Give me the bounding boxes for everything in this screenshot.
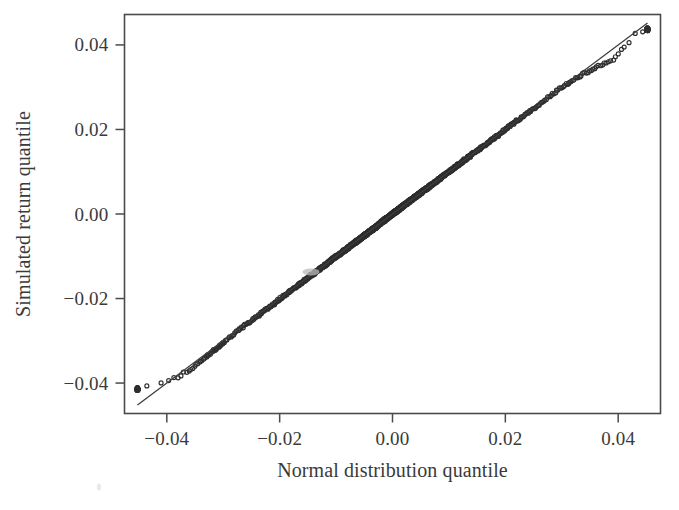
y-tick-label: −0.02 [64,288,109,309]
y-axis-title: Simulated return quantile [12,111,35,317]
y-tick-label: −0.04 [64,373,109,394]
x-axis-title: Normal distribution quantile [277,459,508,482]
qq-plot-figure: −0.04−0.020.000.020.04 −0.04−0.020.000.0… [0,0,679,510]
scan-speck-artifact [97,484,101,491]
x-tick-label: −0.02 [257,428,302,449]
y-tick-label: 0.04 [74,34,108,55]
x-tick-label: 0.04 [601,428,635,449]
y-tick-label: 0.00 [74,204,108,225]
y-tick-label: 0.02 [74,119,108,140]
scan-smudge-artifact [303,269,320,276]
x-tick-label: 0.02 [488,428,522,449]
x-tick-label: −0.04 [144,428,189,449]
plot-canvas: −0.04−0.020.000.020.04 −0.04−0.020.000.0… [0,0,679,510]
x-tick-label: 0.00 [375,428,409,449]
